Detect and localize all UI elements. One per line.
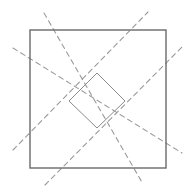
dashed-construction-lines	[13, 12, 182, 185]
dashed-line-diag-up-upper	[13, 12, 148, 150]
outer-square	[30, 30, 166, 168]
dashed-line-diag-up-lower	[45, 47, 182, 185]
diagram-canvas	[0, 0, 193, 195]
